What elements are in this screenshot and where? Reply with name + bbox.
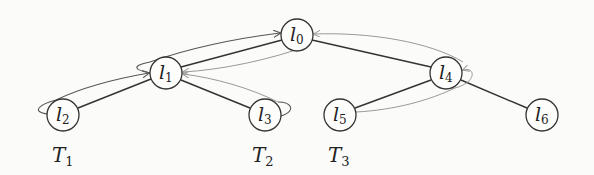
edge-l1-l3 [181, 80, 250, 108]
traversal-labels: T1 T2 T3 [52, 143, 350, 169]
edge-l4-l6 [461, 80, 527, 108]
edge-l4-l5 [355, 80, 431, 108]
label-t3: T3 [328, 143, 350, 169]
edge-l1-l2 [78, 79, 151, 108]
node-l2: l2 [47, 99, 79, 131]
traversal-arc-l2-l1 [56, 73, 149, 100]
tree-nodes: l0 l1 l2 l3 l4 l5 l6 [47, 19, 558, 131]
edge-l0-l4 [312, 40, 431, 67]
label-t2: T2 [252, 143, 274, 169]
edge-l0-l1 [181, 40, 282, 67]
node-l5: l5 [324, 99, 356, 131]
label-t1: T1 [52, 143, 74, 169]
node-l3: l3 [249, 99, 281, 131]
traversal-t2-path [183, 45, 310, 116]
node-l6: l6 [526, 99, 558, 131]
tree-diagram: l0 l1 l2 l3 l4 l5 l6 T1 T2 T3 [0, 0, 594, 175]
node-l1: l1 [150, 57, 182, 89]
node-l4: l4 [430, 57, 462, 89]
traversal-arc-l3-l1 [183, 74, 278, 102]
node-l0: l0 [281, 19, 313, 51]
traversal-arc-l1-loop [137, 62, 150, 73]
traversal-arc-l5-l4 [356, 88, 455, 112]
